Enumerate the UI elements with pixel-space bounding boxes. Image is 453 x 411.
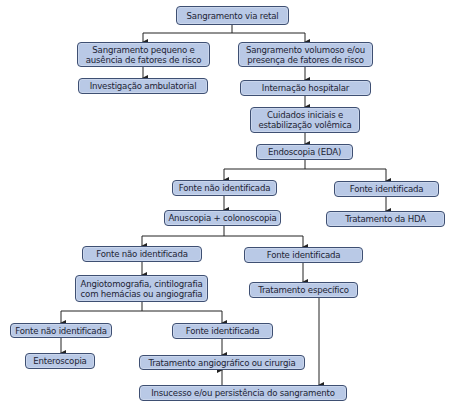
- node-label-line1: Sangramento pequeno e: [92, 45, 194, 55]
- node-label: Investigação ambulatorial: [90, 81, 197, 91]
- node-label-line2: presença de fatores de risco: [247, 55, 364, 65]
- flowchart-connectors: [0, 0, 453, 411]
- node-label: Fonte identificada: [350, 184, 424, 194]
- node-label-line1: Cuidados iniciais e: [267, 110, 343, 120]
- node-cuidados-iniciais: Cuidados iniciais e estabilização volêmi…: [250, 107, 360, 133]
- node-anuscopia-colonoscopia: Anuscopia + colonoscopia: [164, 210, 281, 226]
- node-label: Insucesso e/ou persistência do sangramen…: [151, 388, 335, 398]
- node-sangramento-volumoso: Sangramento volumoso e/ou presença de fa…: [238, 42, 373, 67]
- node-endoscopia-eda: Endoscopia (EDA): [256, 144, 353, 160]
- node-label: Endoscopia (EDA): [268, 147, 341, 157]
- node-label-line1: Angiotomografia, cintilografia: [81, 279, 203, 289]
- node-internacao-hospitalar: Internação hospitalar: [240, 80, 371, 96]
- node-label: Fonte não identificada: [179, 183, 271, 193]
- node-sangramento-pequeno: Sangramento pequeno e ausência de fatore…: [77, 42, 210, 67]
- node-label: Fonte não identificada: [15, 326, 107, 336]
- node-label: Fonte identificada: [267, 250, 341, 260]
- node-fonte-nao-identificada-2: Fonte não identificada: [82, 246, 202, 262]
- node-fonte-nao-identificada-3: Fonte não identificada: [10, 323, 112, 338]
- node-label: Tratamento angiográfico ou cirurgia: [148, 358, 295, 368]
- node-investigacao-ambulatorial: Investigação ambulatorial: [78, 78, 208, 94]
- node-insucesso-persistencia: Insucesso e/ou persistência do sangramen…: [139, 385, 347, 401]
- node-sangramento-via-retal: Sangramento via retal: [176, 6, 289, 25]
- node-label-line1: Sangramento volumoso e/ou: [246, 45, 365, 55]
- node-fonte-identificada-2: Fonte identificada: [244, 247, 363, 263]
- node-tratamento-hda: Tratamento da HDA: [326, 211, 445, 227]
- node-label-line2: estabilização volêmica: [258, 120, 351, 130]
- node-label-line2: ausência de fatores de risco: [86, 55, 202, 65]
- node-enteroscopia: Enteroscopia: [25, 353, 95, 369]
- node-label: Sangramento via retal: [187, 11, 279, 21]
- node-label: Tratamento específico: [258, 285, 349, 295]
- node-tratamento-angiografico: Tratamento angiográfico ou cirurgia: [139, 355, 305, 370]
- node-tratamento-especifico: Tratamento específico: [249, 282, 358, 298]
- node-label: Fonte identificada: [186, 326, 260, 336]
- node-label: Internação hospitalar: [262, 83, 349, 93]
- node-label: Tratamento da HDA: [345, 214, 426, 224]
- node-fonte-nao-identificada-1: Fonte não identificada: [172, 180, 277, 196]
- node-label: Anuscopia + colonoscopia: [168, 213, 276, 223]
- node-angiotomografia: Angiotomografia, cintilografia com hemác…: [75, 275, 208, 302]
- node-label: Fonte não identificada: [96, 249, 188, 259]
- node-label: Enteroscopia: [33, 356, 86, 366]
- node-fonte-identificada-1: Fonte identificada: [334, 181, 439, 197]
- node-label-line2: com hemácias ou angiografia: [81, 289, 203, 299]
- node-fonte-identificada-3: Fonte identificada: [172, 323, 273, 339]
